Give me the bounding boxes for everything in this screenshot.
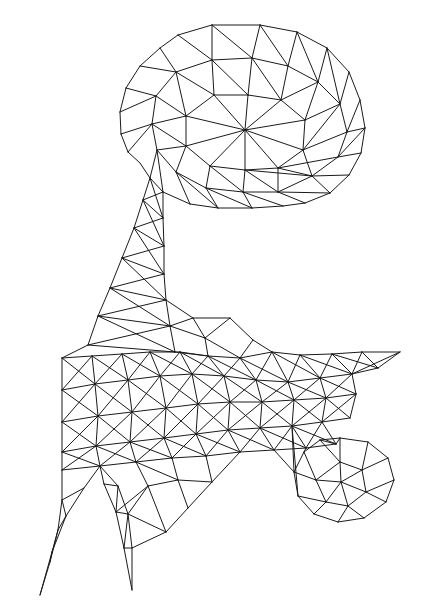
- mesh-figure: [0, 0, 422, 606]
- mesh-canvas: [0, 0, 422, 606]
- canvas-background: [0, 0, 422, 606]
